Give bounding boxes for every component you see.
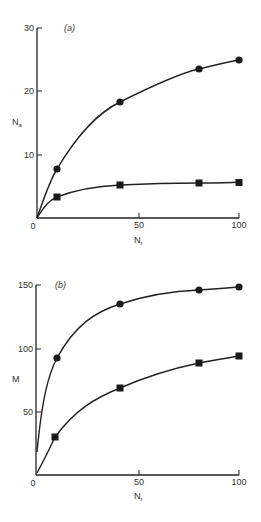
data-point	[236, 179, 243, 186]
panel-label-b: (b)	[55, 280, 66, 290]
figure: 30 20 10 0 50 100 (a) Na Nt 150 100 50 0…	[0, 0, 261, 522]
x-tick-label: 50	[134, 477, 144, 487]
y-axis-label-b: M	[12, 374, 20, 384]
x-tick-label: 50	[134, 220, 144, 230]
origin-label: 0	[30, 478, 35, 488]
y-tick-label: 50	[23, 407, 33, 417]
series-squares-b	[37, 356, 239, 473]
data-point	[52, 434, 59, 441]
data-point	[54, 194, 61, 201]
origin-label: 0	[30, 221, 35, 231]
data-point	[196, 360, 203, 367]
data-point	[53, 354, 60, 361]
y-tick-label: 100	[18, 344, 33, 354]
data-point	[235, 283, 242, 290]
panel-label-a: (a)	[64, 23, 75, 33]
data-point	[195, 286, 202, 293]
y-tick-label: 10	[24, 150, 34, 160]
y-axis-label-a: Na	[12, 117, 23, 128]
data-point	[196, 180, 203, 187]
y-tick-label: 20	[24, 86, 34, 96]
x-tick-label: 100	[231, 477, 246, 487]
x-axis-label-b: Nt	[134, 491, 143, 502]
data-point	[117, 385, 124, 392]
x-tick-label: 100	[231, 220, 246, 230]
y-tick-label: 150	[18, 280, 33, 290]
data-point	[116, 300, 123, 307]
series-squares-a	[37, 182, 239, 218]
x-axis-label-a: Nt	[134, 235, 143, 246]
series-circles-b	[37, 287, 239, 452]
data-point	[117, 182, 124, 189]
series-circles-a	[37, 60, 239, 218]
data-point	[235, 56, 242, 63]
data-point	[195, 65, 202, 72]
chart-b: 150 100 50 0 50 100 (b) M Nt	[12, 280, 247, 502]
data-point	[236, 353, 243, 360]
data-point	[53, 165, 60, 172]
data-point	[116, 98, 123, 105]
y-tick-label: 30	[24, 23, 34, 33]
chart-a: 30 20 10 0 50 100 (a) Na Nt	[12, 23, 247, 246]
